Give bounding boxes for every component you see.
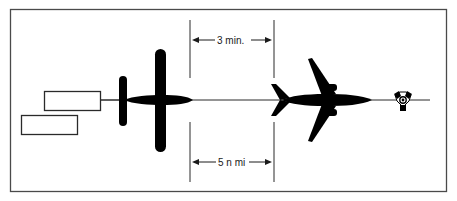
separation-diagram: 3 min. 5 n mi	[0, 0, 457, 201]
distance-separation-label: 5 n mi	[218, 157, 245, 168]
banner-upper	[45, 92, 101, 111]
banner-lower	[22, 116, 78, 135]
time-separation-label: 3 min.	[217, 35, 244, 46]
